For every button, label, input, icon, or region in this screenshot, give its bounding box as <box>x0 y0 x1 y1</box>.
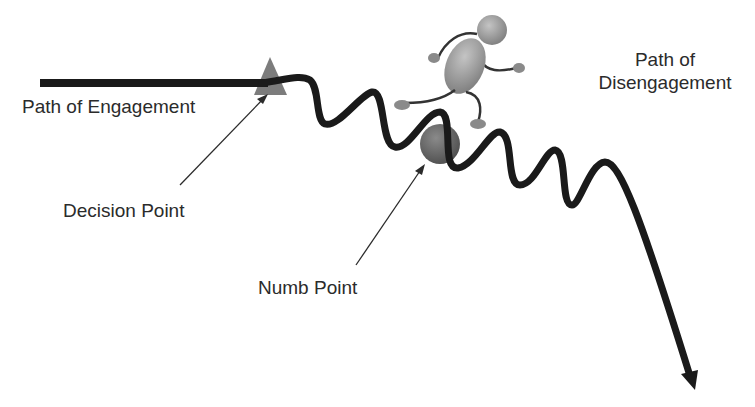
path-of-disengagement-label: Path of Disengagement <box>580 48 750 94</box>
decision-point-label: Decision Point <box>63 199 184 222</box>
numb-pointer-line <box>356 168 422 265</box>
path-end-arrowhead-icon <box>681 370 698 390</box>
disengagement-label-line2: Disengagement <box>580 71 750 94</box>
numb-point-label: Numb Point <box>258 276 357 299</box>
decision-pointer-arrowhead-icon <box>257 94 268 104</box>
running-figure-icon <box>394 15 525 129</box>
decision-point-triangle-icon <box>254 57 287 95</box>
path-of-engagement-label: Path of Engagement <box>22 95 195 118</box>
numb-point-circle-icon <box>420 124 460 164</box>
numb-pointer-arrowhead-icon <box>415 164 425 175</box>
disengagement-label-line1: Path of <box>580 48 750 71</box>
